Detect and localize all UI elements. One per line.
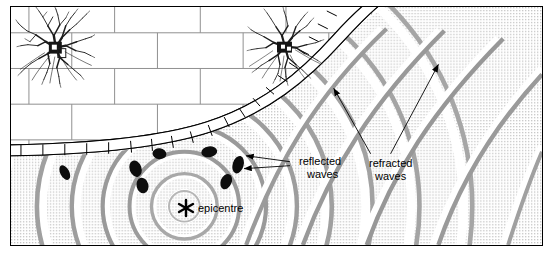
arrow-reflected-1 [246,156,290,162]
arrow-refracted-1 [334,88,371,153]
seismic-diagram: reflected waves refracted waves epicentr… [0,0,553,257]
epicentre-label: epicentre [198,202,243,214]
epicentre-star-icon [176,198,196,218]
arrow-refracted-2 [391,65,439,154]
arrow-reflected-2 [244,166,290,169]
reflected-waves-label-line2: waves [307,168,338,180]
reflected-waves-label-line1: reflected [299,155,341,167]
refracted-waves-label-line2: waves [375,170,406,182]
diagram-frame: reflected waves refracted waves epicentr… [10,6,543,246]
annotation-arrows [11,7,542,245]
refracted-waves-label-line1: refracted [369,157,412,169]
